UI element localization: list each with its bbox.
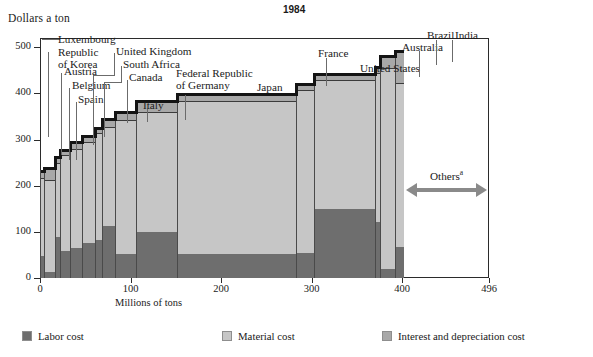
others-arrow-head-right [476,183,487,197]
label-leader-line [93,75,94,145]
segment-material-cost [178,101,296,253]
segment-material-cost [381,68,394,269]
label-leader-line [42,39,52,40]
country-label-france: France [318,48,348,60]
label-leader-line [121,66,122,82]
legend-label: Material cost [238,330,295,342]
x-axis-tick-label: 300 [304,283,320,294]
bar-united-states [314,73,375,278]
others-arrow-line [416,188,477,192]
segment-material-cost [103,127,115,226]
bar-republic-of-korea [44,167,56,278]
country-label-austria: Austria [64,66,97,78]
others-footnote-marker: a [460,168,463,177]
country-label-japan: Japan [257,82,282,94]
segment-material-cost [315,80,375,208]
label-leader-line [104,82,122,83]
bar-step-outline [94,127,97,138]
bar-top-outline [297,83,314,86]
bar-step-outline [295,83,298,96]
label-leader-line [419,51,420,77]
label-leader-line [452,40,453,62]
country-label-spain: Spain [78,94,103,106]
country-label-luxembourg: Luxembourg [58,34,116,46]
legend: Labor costMaterial costInterest and depr… [0,330,593,350]
segment-labor-cost [396,247,404,279]
legend-item-interest[interactable]: Interest and depreciation cost [382,330,525,342]
label-leader-line [76,102,77,160]
bar-japan [177,93,296,278]
country-label-canada: Canada [129,72,163,84]
country-label-united-states: United States [360,63,420,75]
label-leader-line [127,80,128,123]
bar-step-outline [135,100,138,114]
x-axis-tick-label: 200 [213,283,229,294]
y-axis-tick-label: 500 [5,40,31,51]
label-leader-line [48,52,49,137]
segment-labor-cost [381,269,394,279]
segment-labor-cost [137,232,177,279]
label-leader-line [104,82,105,137]
y-axis-tick-label: 200 [5,179,31,190]
country-label-south-africa: South Africa [123,59,180,71]
legend-label: Interest and depreciation cost [398,330,525,342]
segment-labor-cost [178,254,296,279]
bar-france [296,83,314,278]
x-axis-tick-label: 100 [123,283,139,294]
segment-labor-cost [297,253,314,279]
segment-material-cost [83,142,96,244]
y-axis-tick-label: 400 [5,86,31,97]
chart-canvas: Dollars a ton 1984 0100200300400500 0100… [0,0,593,357]
country-label-india: India [455,30,478,42]
label-leader-line [93,75,115,76]
bar-step-outline [114,111,117,120]
legend-label: Labor cost [38,330,84,342]
segment-material-cost [137,112,177,232]
segment-material-cost [61,155,70,251]
label-leader-line [436,40,437,65]
bar-step-outline [313,73,316,86]
y-axis-tick-label: 300 [5,133,31,144]
bar-belgium [60,149,70,278]
legend-item-material[interactable]: Material cost [222,330,295,342]
segment-material-cost [45,180,56,272]
bar-italy [115,111,136,278]
others-arrow-head-left [406,183,417,197]
bar-canada [102,118,115,278]
country-label-brazil: Brazil [427,30,454,42]
x-axis-tick-label: 0 [37,283,42,294]
country-label-italy: Italy [143,100,164,112]
segment-labor-cost [45,272,56,279]
x-axis-tick-label: 496 [481,283,497,294]
segment-material-cost [396,83,404,247]
legend-swatch-interest-icon [382,331,392,341]
y-axis-tick-label: 100 [5,225,31,236]
label-leader-line [61,73,62,155]
chart-title: 1984 [283,4,305,15]
segment-material-cost [297,90,314,252]
bar-step-outline [81,135,84,144]
segment-labor-cost [61,251,70,278]
bar-top-outline [381,55,394,58]
bar-federal-republic-of-germany [136,100,177,278]
segment-labor-cost [116,254,136,279]
bar-spain [70,141,82,278]
segment-labor-cost [103,226,115,278]
legend-swatch-labor-icon [22,331,32,341]
y-axis-tick-label: 0 [5,271,31,282]
bar-step-outline [394,50,397,58]
bar-united-kingdom [82,135,96,278]
bar-step-outline [43,167,46,173]
label-leader-line [185,95,186,120]
others-label: Othersa [430,168,463,182]
segment-material-cost [116,120,136,254]
legend-swatch-material-icon [222,331,232,341]
bar-brazil [380,55,394,278]
segment-labor-cost [315,209,375,279]
label-leader-line [69,88,70,160]
bar-step-outline [54,156,57,171]
bar-step-outline [176,93,179,103]
bar-south-africa [95,127,102,278]
legend-item-labor[interactable]: Labor cost [22,330,84,342]
segment-labor-cost [71,248,82,279]
